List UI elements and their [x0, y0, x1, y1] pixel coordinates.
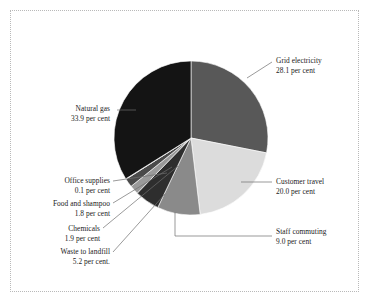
- slice-label-name: Chemicals: [68, 224, 100, 233]
- slice-label-value: 1.9 per cent: [65, 234, 100, 244]
- slice-label-food-and-shampoo: Food and shampoo 1.8 per cent: [53, 199, 110, 218]
- slice-label-staff-commuting: Staff commuting 9.0 per cent: [276, 227, 327, 246]
- pie-slice-group: [114, 61, 268, 215]
- slice-label-name: Office supplies: [64, 176, 110, 185]
- slice-label-value: 9.0 per cent: [276, 237, 327, 247]
- slice-label-grid-electricity: Grid electricity 28.1 per cent: [276, 56, 322, 75]
- slice-label-waste-to-landfill: Waste to landfill 5.2 per cent.: [60, 247, 110, 266]
- leader-line-staff-commuting: [175, 212, 272, 236]
- slice-label-name: Customer travel: [276, 177, 324, 186]
- slice-label-value: 1.8 per cent: [53, 209, 110, 219]
- slice-label-name: Staff commuting: [276, 227, 327, 236]
- slice-label-chemicals: Chemicals 1.9 per cent: [65, 224, 100, 243]
- slice-label-value: 28.1 per cent: [276, 66, 322, 76]
- pie-chart-canvas: [0, 0, 369, 302]
- slice-label-name: Grid electricity: [276, 56, 322, 65]
- slice-label-value: 0.1 per cent: [64, 186, 110, 196]
- slice-label-name: Food and shampoo: [53, 199, 110, 208]
- slice-label-value: 5.2 per cent.: [60, 257, 110, 267]
- slice-label-value: 20.0 per cent: [276, 187, 324, 197]
- slice-label-office-supplies: Office supplies 0.1 per cent: [64, 176, 110, 195]
- leader-line-grid-electricity: [247, 62, 272, 78]
- slice-label-value: 33.9 per cent: [71, 114, 110, 124]
- pie-slice-grid-electricity: [191, 61, 268, 153]
- leader-line-waste-landfill: [113, 194, 165, 252]
- slice-label-name: Natural gas: [76, 104, 110, 113]
- slice-label-name: Waste to landfill: [60, 247, 110, 256]
- slice-label-natural-gas: Natural gas 33.9 per cent: [71, 104, 110, 123]
- pie-chart-figure: Grid electricity 28.1 per cent Customer …: [0, 0, 369, 302]
- slice-label-customer-travel: Customer travel 20.0 per cent: [276, 177, 324, 196]
